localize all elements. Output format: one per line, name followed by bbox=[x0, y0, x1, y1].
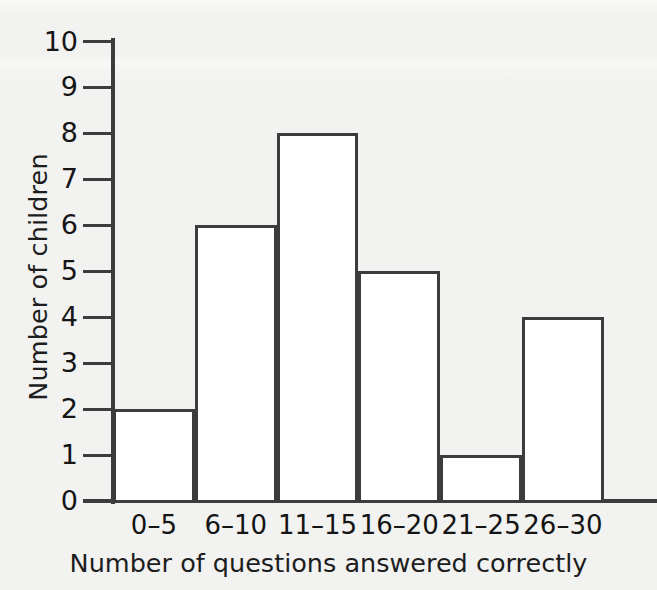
y-axis-tick bbox=[83, 500, 113, 503]
y-axis-tick-label: 5 bbox=[34, 257, 78, 284]
y-axis-tick-label: 7 bbox=[34, 165, 78, 192]
y-axis-tick-labels: 012345678910 bbox=[22, 0, 78, 590]
y-axis-tick bbox=[83, 86, 113, 89]
y-axis-tick bbox=[83, 316, 113, 319]
plot-area: 012345678910 0–56–1011–1516–2021–2526–30 bbox=[0, 0, 657, 590]
y-axis-tick-label: 8 bbox=[34, 119, 78, 146]
bar bbox=[277, 133, 359, 503]
x-axis-tick-label: 26–30 bbox=[514, 512, 612, 538]
y-axis-tick-label: 2 bbox=[34, 395, 78, 422]
x-axis-title: Number of questions answered correctly bbox=[0, 548, 657, 578]
y-axis-tick bbox=[83, 40, 113, 43]
y-axis-tick bbox=[83, 408, 113, 411]
bar bbox=[440, 455, 522, 503]
y-axis-tick-label: 3 bbox=[34, 349, 78, 376]
x-axis-tick-labels: 0–56–1011–1516–2021–2526–30 bbox=[0, 505, 657, 547]
bar bbox=[195, 225, 277, 503]
y-axis-tick-label: 9 bbox=[34, 73, 78, 100]
histogram-figure: Number of children 012345678910 0–56–101… bbox=[0, 0, 657, 590]
y-axis-tick-label: 1 bbox=[34, 441, 78, 468]
y-axis-tick-label: 6 bbox=[34, 211, 78, 238]
y-axis-tick-label: 10 bbox=[34, 28, 78, 55]
y-axis-tick bbox=[83, 178, 113, 181]
y-axis-tick bbox=[83, 270, 113, 273]
y-axis-tick bbox=[83, 362, 113, 365]
y-axis-tick bbox=[83, 454, 113, 457]
bar bbox=[358, 271, 440, 503]
y-axis-tick bbox=[83, 224, 113, 227]
y-axis-tick-label: 4 bbox=[34, 303, 78, 330]
bar bbox=[113, 409, 195, 503]
bar bbox=[522, 317, 604, 503]
y-axis-tick bbox=[83, 132, 113, 135]
